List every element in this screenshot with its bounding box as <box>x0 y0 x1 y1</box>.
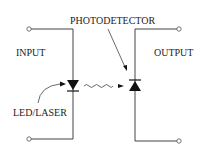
led-laser-label: LED/LASER <box>13 107 67 118</box>
output-terminal-top <box>177 27 181 31</box>
output-label: OUTPUT <box>154 47 193 58</box>
output-wire <box>135 29 177 141</box>
input-terminal-top <box>27 27 31 31</box>
output-circuit <box>135 27 181 143</box>
photodetector-pointer-arrow <box>108 29 127 71</box>
input-label: INPUT <box>16 47 45 58</box>
output-terminal-bottom <box>177 139 181 143</box>
optocoupler-diagram: INPUT OUTPUT PHOTODETECTOR LED/LASER <box>0 0 203 152</box>
led-diode-icon <box>67 80 79 91</box>
photodiode-icon <box>129 80 141 91</box>
led-pointer-arrow <box>38 82 66 104</box>
input-wire <box>31 29 73 139</box>
light-wave-arrow <box>84 84 124 88</box>
input-terminal-bottom <box>27 137 31 141</box>
photodetector-label: PHOTODETECTOR <box>70 15 156 26</box>
input-circuit <box>27 27 73 141</box>
